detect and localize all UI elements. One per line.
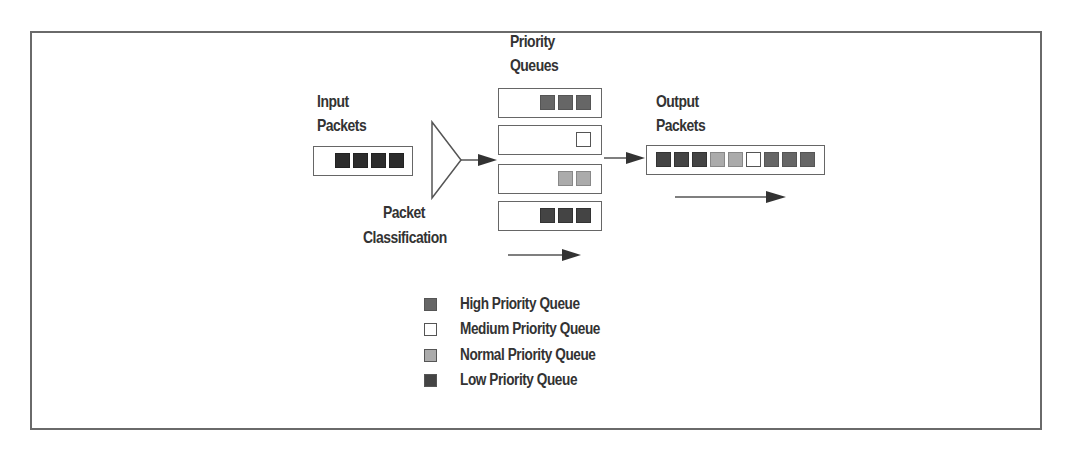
arrow-queues-to-output-icon [604,152,645,164]
legend-swatch-medium [424,323,437,336]
output-flow-direction-arrow-icon [675,191,786,203]
legend-swatch-normal [424,349,437,362]
legend-label-low: Low Priority Queue [460,370,577,390]
arrow-classifier-to-queues-icon [461,154,497,166]
legend-label-normal: Normal Priority Queue [460,345,595,365]
queue-flow-direction-arrow-icon [508,249,581,261]
legend-swatch-low [424,374,437,387]
legend-label-high: High Priority Queue [460,294,580,314]
legend-swatch-high [424,298,437,311]
classifier-triangle-icon [432,122,461,198]
legend-label-medium: Medium Priority Queue [460,319,600,339]
